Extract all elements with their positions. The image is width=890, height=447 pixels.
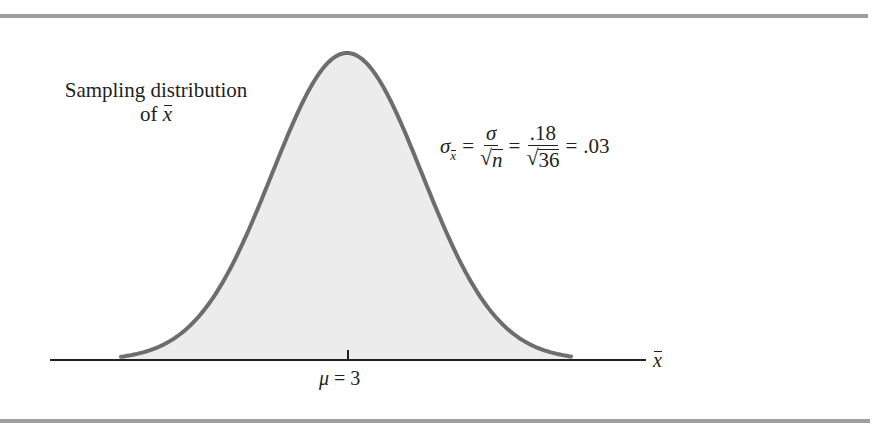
standard-error-formula: σx = σ √n = .18 √36 = .03 bbox=[440, 122, 610, 170]
title-line-2: of x bbox=[52, 102, 260, 126]
standard-error-value: .03 bbox=[583, 134, 609, 159]
xbar-axis-symbol: x bbox=[653, 348, 662, 372]
sqrt-36: √36 bbox=[526, 146, 559, 170]
sqrt-icon: √ bbox=[480, 147, 492, 169]
mu-value: = 3 bbox=[329, 367, 360, 389]
mean-tick-label: μ = 3 bbox=[319, 366, 360, 390]
denominator-n: n bbox=[492, 148, 503, 172]
sigma-xbar: σx bbox=[440, 134, 456, 159]
equals-sign: = bbox=[509, 134, 521, 159]
sqrt-icon: √ bbox=[526, 147, 538, 169]
distribution-title: Sampling distribution of x bbox=[52, 78, 260, 126]
xbar-symbol: x bbox=[163, 102, 172, 126]
numerator-sigma: σ bbox=[486, 121, 496, 145]
numerator-018: .18 bbox=[528, 122, 558, 146]
fraction-sigma-over-sqrt-n: σ √n bbox=[480, 122, 503, 170]
mu-symbol: μ bbox=[319, 367, 329, 389]
title-line-1: Sampling distribution bbox=[65, 78, 248, 102]
x-axis-label: x bbox=[653, 348, 662, 372]
fraction-018-over-sqrt-36: .18 √36 bbox=[526, 122, 559, 170]
sqrt-n: √n bbox=[480, 146, 503, 170]
xbar-subscript: x bbox=[450, 148, 456, 164]
equals-sign: = bbox=[565, 134, 577, 159]
equals-sign: = bbox=[462, 134, 474, 159]
sigma-symbol: σ bbox=[440, 134, 450, 158]
denominator-36: 36 bbox=[538, 149, 559, 170]
normal-curve-plot bbox=[0, 0, 890, 447]
title-of: of bbox=[140, 102, 158, 126]
